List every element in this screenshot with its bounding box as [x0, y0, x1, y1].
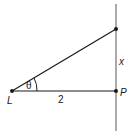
point-L-label: L — [7, 95, 13, 106]
angle-label: θ — [26, 80, 32, 91]
base-length-label: 2 — [58, 94, 64, 105]
vertical-length-label: x — [118, 56, 125, 67]
angle-arc — [34, 78, 37, 91]
point-P-label: P — [120, 87, 127, 98]
point-L — [10, 89, 14, 93]
triangle-diagram: θ 2 x L P — [0, 0, 133, 131]
point-top — [114, 27, 118, 31]
point-P — [114, 89, 118, 93]
